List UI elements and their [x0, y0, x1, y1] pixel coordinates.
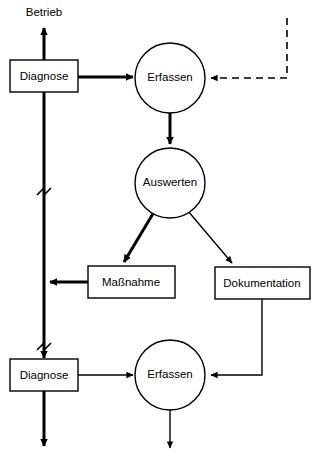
node-auswerten-label: Auswerten	[143, 176, 197, 188]
node-massnahme-label: Maßnahme	[102, 276, 160, 288]
node-erfassen-top-label: Erfassen	[147, 71, 192, 83]
node-diagnose-top: Diagnose	[10, 60, 78, 92]
node-massnahme: Maßnahme	[88, 266, 175, 298]
edge-auswerten-to-massnahme	[124, 212, 154, 262]
node-betrieb-label: Betrieb	[26, 6, 62, 18]
node-dokumentation: Dokumentation	[215, 267, 310, 299]
edge-dokumentation-to-erfassen-bottom	[211, 299, 262, 375]
node-auswerten: Auswerten	[135, 148, 205, 218]
edge-feedback-dashed	[211, 18, 287, 78]
node-erfassen-bottom-label: Erfassen	[147, 368, 192, 380]
node-dokumentation-label: Dokumentation	[223, 277, 300, 289]
node-diagnose-bottom-label: Diagnose	[20, 369, 69, 381]
flowchart-diagram: Betrieb Diagnose Erfassen Auswerten Maßn…	[0, 0, 315, 458]
node-betrieb: Betrieb	[26, 6, 62, 18]
flowchart-canvas: Betrieb Diagnose Erfassen Auswerten Maßn…	[0, 0, 315, 458]
node-diagnose-bottom: Diagnose	[10, 359, 78, 391]
node-erfassen-bottom: Erfassen	[135, 340, 205, 410]
node-erfassen-top: Erfassen	[135, 43, 205, 113]
node-diagnose-top-label: Diagnose	[20, 70, 69, 82]
edge-auswerten-to-dokumentation	[188, 211, 232, 263]
